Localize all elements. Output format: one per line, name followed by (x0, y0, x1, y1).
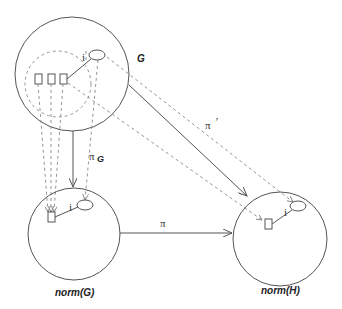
label-G: G (137, 53, 145, 64)
label-pi-prime-mark: ’ (215, 115, 219, 127)
square-node-2 (48, 74, 55, 84)
diagram-canvas: i G π G π ’ i norm(G) π i norm(H) (0, 0, 342, 309)
node-normG (28, 188, 120, 280)
label-i-normH: i (284, 206, 287, 218)
ellipse-node-G (89, 50, 105, 60)
ellipse-node-normG (77, 200, 93, 210)
node-G (15, 17, 129, 131)
label-pi-prime-symbol: π (205, 119, 211, 131)
label-pi-G-symbol: π (89, 150, 95, 162)
node-normH (233, 192, 327, 286)
square-node-normH (265, 219, 272, 229)
label-i-G: i (82, 51, 85, 63)
dashed-projections-normG (38, 60, 98, 212)
square-node-normG (48, 212, 55, 222)
ellipse-node-normH (290, 201, 306, 211)
label-pi-G-subscript: G (97, 154, 104, 164)
edge-i-normG (55, 207, 78, 217)
arrow-pi-prime (129, 85, 247, 196)
label-normH: norm(H) (261, 285, 301, 296)
dashed-projections-normH (68, 57, 293, 220)
circle-normG (28, 188, 120, 280)
label-pi: π (160, 217, 166, 229)
square-node-3 (60, 74, 67, 84)
square-node-1 (35, 74, 42, 84)
label-i-normG: i (69, 201, 72, 213)
edge-i-normH (272, 210, 292, 224)
edge-i-G (67, 59, 91, 79)
label-normG: norm(G) (55, 287, 95, 298)
circle-normH (233, 192, 327, 286)
